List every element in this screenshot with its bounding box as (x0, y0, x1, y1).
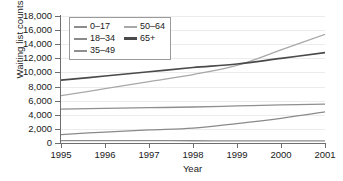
legend-swatch-icon (74, 26, 87, 28)
y-tick-label: 8,000 (0, 81, 52, 92)
series-line-3549 (61, 104, 325, 109)
x-tick-label: 1999 (217, 149, 257, 160)
x-tick-label: 1996 (85, 149, 125, 160)
y-tick-label: 4,000 (0, 109, 52, 120)
legend-swatch-icon (124, 26, 137, 28)
x-tick-label: 2000 (261, 149, 301, 160)
legend-swatch-icon (124, 37, 137, 39)
legend-column-1: 0–1718–3435–49 (74, 21, 115, 56)
legend-item[interactable]: 35–49 (74, 45, 115, 56)
chart-figure: Waiting list counts Year 02,0004,0006,00… (0, 0, 343, 181)
legend-swatch-icon (74, 50, 87, 52)
legend-item[interactable]: 50–64 (124, 21, 165, 32)
y-tick-label: 14,000 (0, 38, 52, 49)
legend-item[interactable]: 0–17 (74, 21, 115, 32)
x-tick-mark (105, 144, 106, 148)
legend-column-2: 50–6465+ (124, 21, 165, 56)
x-tick-mark (193, 144, 194, 148)
series-line-1834 (61, 112, 325, 135)
x-tick-label: 1997 (129, 149, 169, 160)
x-tick-label: 1998 (173, 149, 213, 160)
y-tick-label: 16,000 (0, 24, 52, 35)
y-tick-label: 10,000 (0, 66, 52, 77)
legend-label: 18–34 (90, 33, 115, 44)
x-axis-title: Year (60, 163, 325, 174)
y-tick-label: 18,000 (0, 10, 52, 21)
y-tick-label: 12,000 (0, 52, 52, 63)
legend-label: 0–17 (90, 21, 110, 32)
legend-swatch-icon (74, 38, 87, 40)
x-axis-line (60, 143, 326, 144)
legend-label: 65+ (140, 33, 155, 44)
chart-legend: 0–1718–3435–4950–6465+ (69, 17, 171, 60)
x-tick-label: 1995 (41, 149, 81, 160)
x-tick-mark (149, 144, 150, 148)
x-tick-mark (325, 144, 326, 148)
legend-item[interactable]: 65+ (124, 33, 165, 44)
y-tick-label: 2,000 (0, 123, 52, 134)
x-tick-mark (281, 144, 282, 148)
legend-item[interactable]: 18–34 (74, 33, 115, 44)
legend-label: 50–64 (140, 21, 165, 32)
legend-label: 35–49 (90, 45, 115, 56)
y-tick-label: 6,000 (0, 95, 52, 106)
x-tick-mark (237, 144, 238, 148)
x-tick-mark (61, 144, 62, 148)
y-tick-label: 0 (0, 137, 52, 148)
x-tick-label: 2001 (305, 149, 343, 160)
